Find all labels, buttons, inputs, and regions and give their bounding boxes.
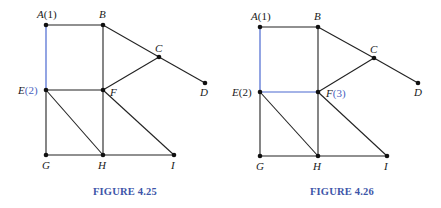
label-b: B xyxy=(99,8,106,20)
graph-figures: A(1) B C D E(2) F G H I FIGURE 4.25 xyxy=(0,0,441,208)
label-h: H xyxy=(312,160,322,172)
label-d: D xyxy=(199,86,208,98)
figure-caption: FIGURE 4.26 xyxy=(310,186,374,197)
node-d xyxy=(203,81,208,86)
figure-caption: FIGURE 4.25 xyxy=(93,186,157,197)
node-i xyxy=(385,154,390,159)
label-e: E(2) xyxy=(231,86,252,99)
label-f: F(3) xyxy=(325,87,346,100)
edge-e-h xyxy=(260,92,318,156)
label-d: D xyxy=(413,86,422,98)
edge-e-h xyxy=(46,90,103,155)
node-e xyxy=(258,90,263,95)
figure-4-25: A(1) B C D E(2) F G H I FIGURE 4.25 xyxy=(17,8,208,197)
edge-b-c xyxy=(103,25,159,57)
label-e: E(2) xyxy=(17,84,38,97)
node-g xyxy=(258,154,263,159)
label-c: C xyxy=(370,43,378,55)
label-a: A(1) xyxy=(250,10,271,23)
node-a xyxy=(44,23,49,28)
node-c xyxy=(372,56,377,61)
node-b xyxy=(101,23,106,28)
edge-c-d xyxy=(374,58,418,83)
edges xyxy=(46,25,205,155)
node-h xyxy=(316,154,321,159)
label-f: F xyxy=(109,86,117,98)
node-e xyxy=(44,88,49,93)
label-i: I xyxy=(170,159,176,171)
edge-b-c xyxy=(318,27,374,58)
node-g xyxy=(44,153,49,158)
node-f xyxy=(316,90,321,95)
node-h xyxy=(101,153,106,158)
node-a xyxy=(258,25,263,30)
label-g: G xyxy=(42,159,50,171)
label-c: C xyxy=(155,42,163,54)
edge-f-i xyxy=(318,92,387,156)
label-g: G xyxy=(256,160,264,172)
node-c xyxy=(157,55,162,60)
label-a: A(1) xyxy=(36,8,57,21)
node-d xyxy=(416,81,421,86)
edge-f-i xyxy=(103,90,174,155)
label-b: B xyxy=(314,10,321,22)
node-i xyxy=(172,153,177,158)
edge-c-d xyxy=(159,57,205,83)
label-h: H xyxy=(97,159,107,171)
node-f xyxy=(101,88,106,93)
figure-4-26: A(1) B C D E(2) F(3) G H I FIGURE 4.26 xyxy=(231,10,422,197)
node-b xyxy=(316,25,321,30)
label-i: I xyxy=(383,160,389,172)
